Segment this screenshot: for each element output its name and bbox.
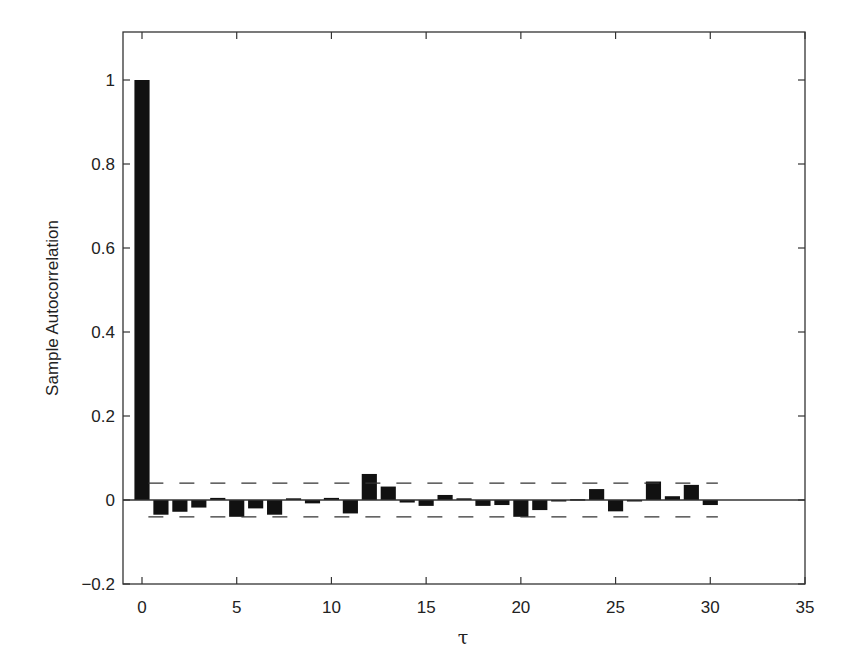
bar-lag-18 — [475, 500, 490, 506]
x-tick-label: 0 — [137, 598, 146, 617]
x-tick-label: 15 — [417, 598, 436, 617]
x-axis-label: τ — [458, 626, 469, 648]
bar-lag-24 — [589, 489, 604, 500]
x-axis-ticks: 05101520253035 — [137, 32, 814, 617]
y-tick-label: 0.6 — [91, 239, 115, 258]
x-tick-label: 35 — [796, 598, 815, 617]
y-tick-label: −0.2 — [81, 575, 115, 594]
y-tick-label: 0.8 — [91, 155, 115, 174]
bar-lag-15 — [419, 500, 434, 506]
y-tick-label: 1 — [106, 71, 115, 90]
x-tick-label: 10 — [322, 598, 341, 617]
x-tick-label: 25 — [606, 598, 625, 617]
x-tick-label: 20 — [511, 598, 530, 617]
y-tick-label: 0.2 — [91, 407, 115, 426]
bar-lag-2 — [172, 500, 187, 512]
bar-lag-21 — [532, 500, 547, 510]
bar-lag-16 — [438, 495, 453, 500]
bar-lag-20 — [513, 500, 528, 517]
bars — [134, 80, 717, 517]
bar-lag-3 — [191, 500, 206, 508]
bar-lag-7 — [267, 500, 282, 515]
x-tick-label: 30 — [701, 598, 720, 617]
bar-lag-11 — [343, 500, 358, 513]
bar-lag-12 — [362, 474, 377, 500]
bar-lag-19 — [494, 500, 509, 505]
bar-lag-0 — [134, 80, 149, 500]
axes-box — [123, 32, 805, 584]
y-axis-label: Sample Autocorrelation — [43, 220, 62, 396]
bar-lag-13 — [381, 487, 396, 500]
y-tick-label: 0.4 — [91, 323, 115, 342]
autocorrelation-chart: 05101520253035 −0.200.20.40.60.81 τ Samp… — [0, 0, 858, 670]
bar-lag-6 — [248, 500, 263, 508]
x-tick-label: 5 — [232, 598, 241, 617]
bar-lag-30 — [703, 500, 718, 505]
y-axis-ticks: −0.200.20.40.60.81 — [81, 71, 805, 594]
bar-lag-29 — [684, 485, 699, 500]
y-tick-label: 0 — [106, 491, 115, 510]
bar-lag-25 — [608, 500, 623, 511]
bar-lag-27 — [646, 482, 661, 500]
bar-lag-1 — [153, 500, 168, 515]
bar-lag-5 — [229, 500, 244, 517]
